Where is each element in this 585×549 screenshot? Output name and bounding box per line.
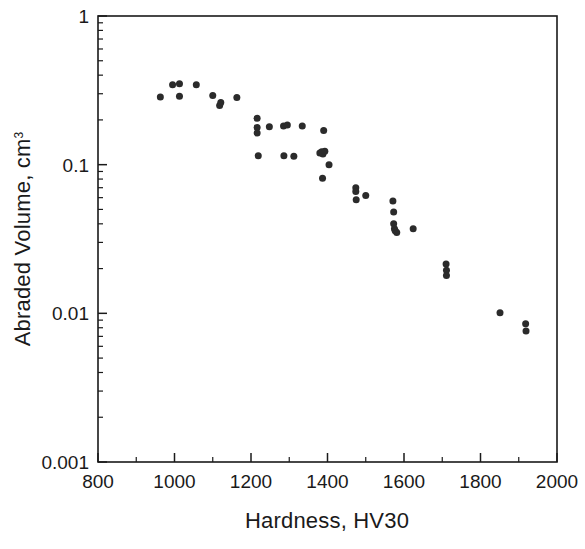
data-point [523, 328, 530, 335]
data-point [319, 175, 326, 182]
data-point [299, 123, 306, 130]
data-point [280, 152, 287, 159]
data-point [176, 80, 183, 87]
data-point [254, 130, 261, 137]
data-point [389, 197, 396, 204]
y-axis-title: Abraded Volume, cm3 [10, 132, 35, 347]
data-point [326, 161, 333, 168]
x-tick-label: 2000 [536, 471, 578, 492]
data-point [290, 153, 297, 160]
data-point [169, 81, 176, 88]
x-tick-label: 800 [82, 471, 114, 492]
data-point [193, 81, 200, 88]
data-point [410, 225, 417, 232]
data-point [390, 209, 397, 216]
data-point [266, 123, 273, 130]
data-point [362, 192, 369, 199]
data-point [157, 94, 164, 101]
y-tick-label: 0.001 [41, 452, 89, 473]
x-tick-label: 1000 [153, 471, 195, 492]
data-point [393, 229, 400, 236]
data-point [352, 188, 359, 195]
data-point [443, 272, 450, 279]
data-point [443, 260, 450, 267]
data-point [255, 152, 262, 159]
x-tick-label: 1400 [306, 471, 348, 492]
data-point [209, 92, 216, 99]
x-tick-label: 1200 [230, 471, 272, 492]
x-tick-label: 1800 [459, 471, 501, 492]
x-axis-title: Hardness, HV30 [245, 508, 409, 533]
data-point [321, 148, 328, 155]
data-point [233, 94, 240, 101]
y-tick-label: 1 [78, 6, 89, 27]
y-tick-label: 0.01 [52, 303, 89, 324]
data-point [522, 320, 529, 327]
x-tick-label: 1600 [383, 471, 425, 492]
y-axis-title-group: Abraded Volume, cm3 [10, 132, 35, 347]
abraded-volume-vs-hardness-chart: 800100012001400160018002000 0.0010.010.1… [0, 0, 585, 549]
data-point [353, 196, 360, 203]
data-point [284, 121, 291, 128]
y-tick-label: 0.1 [63, 155, 89, 176]
data-point [176, 93, 183, 100]
data-point [217, 99, 224, 106]
data-point [254, 115, 261, 122]
data-point [320, 127, 327, 134]
data-point [497, 309, 504, 316]
